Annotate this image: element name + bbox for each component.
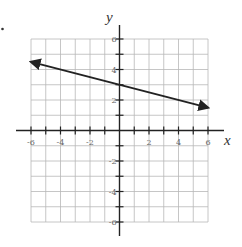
- coordinate-plane: -6-4-2246 642-2-4-6 x y: [0, 0, 242, 247]
- x-tick-label: -2: [86, 138, 94, 147]
- x-tick-label: 2: [146, 138, 151, 147]
- y-tick-label: -2: [109, 157, 117, 166]
- problem-number-dot: [1, 28, 4, 31]
- y-tick-label: 2: [111, 96, 116, 105]
- y-tick-label: 4: [111, 66, 116, 75]
- y-axis-label: y: [104, 9, 113, 25]
- x-tick-label: 4: [176, 138, 181, 147]
- x-tick-label: -4: [57, 138, 65, 147]
- y-tick-label: -6: [109, 218, 117, 227]
- y-tick-label: 6: [111, 35, 116, 44]
- x-tick-label: 6: [205, 138, 210, 147]
- x-tick-label: -6: [27, 138, 35, 147]
- y-tick-label: -4: [109, 188, 117, 197]
- x-axis-label: x: [223, 132, 231, 148]
